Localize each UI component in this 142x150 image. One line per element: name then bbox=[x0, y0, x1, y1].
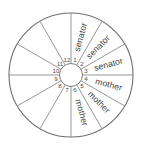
hub-number-10: 10 bbox=[53, 67, 60, 74]
hub-number-9: 9 bbox=[54, 75, 58, 82]
hub-number-1: 1 bbox=[73, 56, 77, 63]
sector-label-6: mother bbox=[73, 98, 90, 127]
sector-divider-8 bbox=[40, 85, 65, 129]
hub-number-8: 8 bbox=[58, 82, 62, 89]
hub-circle bbox=[60, 64, 83, 87]
sector-divider-12 bbox=[40, 21, 65, 65]
hub-number-7: 7 bbox=[65, 86, 69, 93]
hub-number-3: 3 bbox=[84, 67, 88, 74]
hub-number-12: 12 bbox=[64, 56, 71, 63]
sector-label-4: mother bbox=[94, 76, 123, 93]
sector-divider-11 bbox=[17, 44, 61, 69]
hub-group bbox=[60, 64, 83, 87]
sector-label-5: mother bbox=[86, 89, 112, 115]
hub-number-2: 2 bbox=[80, 60, 84, 67]
hub-number-5: 5 bbox=[80, 82, 84, 89]
sector-label-2: senator bbox=[84, 33, 112, 61]
hub-number-6: 6 bbox=[73, 86, 77, 93]
sector-label-3: senator bbox=[93, 56, 124, 73]
wheel-diagram: 123456789101112 senatorsenatorsenatormot… bbox=[0, 0, 142, 150]
sector-divider-9 bbox=[17, 81, 61, 106]
wheel-svg: 123456789101112 senatorsenatorsenatormot… bbox=[0, 0, 142, 150]
hub-number-4: 4 bbox=[84, 75, 88, 82]
